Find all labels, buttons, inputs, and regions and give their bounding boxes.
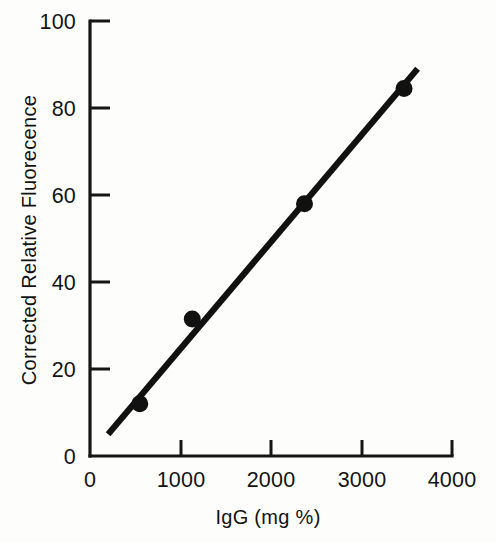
x-tick-label-2000: 2000 (247, 468, 296, 492)
x-tick-label-1000: 1000 (157, 468, 206, 492)
data-point (184, 310, 201, 327)
y-axis-ticks (90, 21, 110, 369)
y-tick-label-100: 100 (40, 10, 76, 34)
x-tick-label-3000: 3000 (338, 468, 387, 492)
data-point (396, 80, 413, 97)
x-tick-label-4000: 4000 (428, 468, 477, 492)
data-point (296, 195, 313, 212)
chart-plot: 100 80 60 40 20 0 0 1000 2000 3000 4000 … (0, 0, 496, 543)
x-tick-label-0: 0 (84, 468, 96, 492)
y-axis-title: Corrected Relative Fluorecence (18, 95, 40, 385)
y-tick-label-20: 20 (52, 358, 76, 382)
x-axis-title: IgG (mg %) (215, 506, 320, 528)
data-point (131, 395, 148, 412)
x-axis-ticks (181, 440, 452, 456)
y-tick-label-0: 0 (64, 445, 76, 469)
regression-line (108, 69, 418, 434)
figure-container: 100 80 60 40 20 0 0 1000 2000 3000 4000 … (0, 0, 496, 543)
y-tick-label-40: 40 (52, 271, 76, 295)
y-tick-label-60: 60 (52, 184, 76, 208)
data-point-group (131, 80, 412, 412)
y-tick-label-80: 80 (52, 97, 76, 121)
